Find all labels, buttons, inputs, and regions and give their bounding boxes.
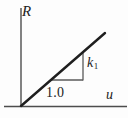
slope-label: k1 <box>87 56 98 70</box>
slope-label-symbol: k <box>87 55 93 70</box>
slope-label-subscript: 1 <box>94 61 99 71</box>
run-length-label: 1.0 <box>46 86 64 100</box>
y-axis-label: R <box>22 4 31 19</box>
figure-container: R u k1 1.0 <box>0 0 128 118</box>
x-axis-label: u <box>106 88 113 102</box>
